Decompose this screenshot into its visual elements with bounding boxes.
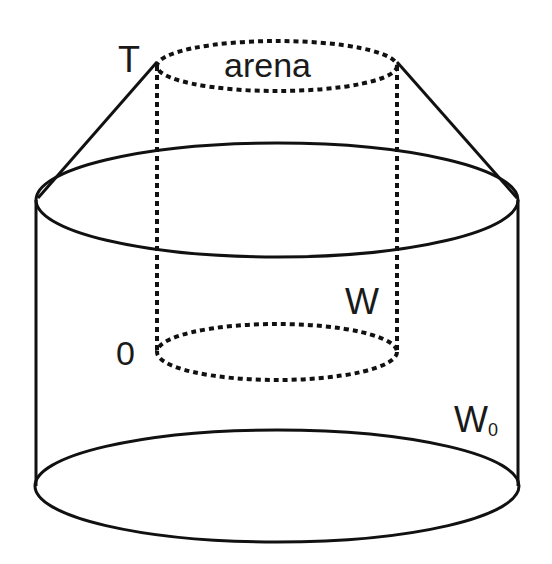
label-w0-main: W — [454, 399, 488, 440]
arena-bottom-ellipse — [157, 324, 397, 380]
cylinder-diagram — [0, 0, 552, 564]
outer-bottom-ellipse — [35, 430, 519, 542]
label-zero: 0 — [116, 336, 135, 370]
label-w0: W0 — [454, 402, 498, 439]
label-arena: arena — [224, 48, 311, 82]
label-t: T — [118, 42, 140, 78]
label-w: W — [345, 284, 379, 320]
label-w0-subscript: 0 — [488, 420, 498, 440]
outer-top-ellipse — [36, 143, 518, 257]
